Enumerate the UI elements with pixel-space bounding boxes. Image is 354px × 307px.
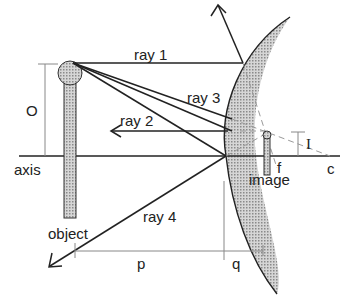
object-label: object <box>48 226 88 241</box>
object-distance-label: p <box>137 256 145 271</box>
ray-3-label: ray 3 <box>187 90 220 105</box>
image-height-label: I <box>306 137 311 152</box>
axis-label: axis <box>14 162 41 177</box>
object-height-dimension <box>38 64 58 156</box>
ray-diagram-canvas <box>0 0 354 307</box>
ray-4-label: ray 4 <box>143 209 176 224</box>
center-label: c <box>327 161 335 176</box>
ray-2-label: ray 2 <box>120 113 153 128</box>
image-distance-label: q <box>232 256 240 271</box>
object-height-label: O <box>26 103 38 118</box>
object <box>58 61 82 218</box>
image-label: image <box>249 172 290 187</box>
focal-point-label: f <box>277 160 281 175</box>
ray-1-label: ray 1 <box>134 47 167 62</box>
ray-1-reflected <box>218 5 243 63</box>
image <box>263 131 271 175</box>
image-height-dimension <box>291 132 305 156</box>
